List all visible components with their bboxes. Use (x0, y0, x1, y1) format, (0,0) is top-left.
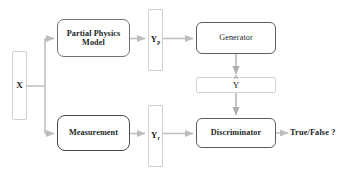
node-generator: Generator (196, 22, 276, 54)
node-partial-physics-model: Partial PhysicsModel (57, 19, 130, 57)
y-hat-accent: ^ (234, 75, 238, 83)
node-y-p: Yp (148, 9, 163, 71)
node-input-x: X (12, 51, 27, 120)
physics-label-line1: Partial Physics (67, 29, 121, 38)
y-r-subscript: r (158, 135, 160, 141)
node-y-p-label: Yp (151, 35, 160, 45)
diagram-canvas: X Partial PhysicsModel Measurement Yp Yr… (0, 0, 353, 172)
edge-layer (0, 0, 353, 172)
node-measurement: Measurement (57, 115, 130, 151)
y-r-base: Y (151, 130, 157, 140)
node-discriminator: Discriminator (196, 118, 276, 148)
y-p-subscript: p (157, 39, 160, 45)
node-y-r-label: Yr (151, 131, 160, 141)
edge-x-branch (27, 39, 54, 134)
node-partial-physics-model-label: Partial PhysicsModel (67, 29, 121, 47)
node-output-true-false: True/False ? (290, 124, 350, 142)
node-y-hat-label: ^Y (233, 80, 240, 90)
node-output-label: True/False ? (290, 128, 335, 137)
node-measurement-label: Measurement (69, 128, 118, 137)
physics-label-line2: Model (82, 38, 105, 47)
node-input-x-label: X (16, 80, 23, 90)
node-generator-label: Generator (219, 33, 253, 42)
node-y-r: Yr (148, 105, 163, 167)
node-y-hat: ^Y (196, 77, 276, 93)
node-discriminator-label: Discriminator (211, 128, 261, 137)
